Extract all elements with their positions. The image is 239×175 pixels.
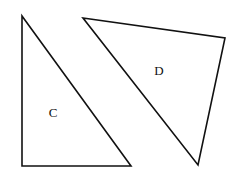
triangle-d — [83, 18, 225, 165]
triangle-c — [22, 16, 131, 166]
diagram-canvas: C D — [0, 0, 239, 175]
triangle-c-label: C — [49, 105, 58, 120]
triangle-d-label: D — [154, 63, 163, 78]
